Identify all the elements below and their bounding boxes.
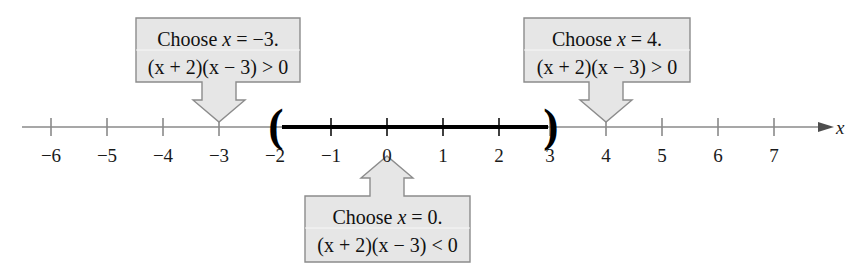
tick-label-0: 0 (367, 146, 407, 165)
callout-4-line1-prefix: Choose (552, 28, 617, 50)
tick-label--2: −2 (255, 146, 295, 165)
callout-0-line1-variable: x (397, 206, 406, 228)
callout-neg3-line1: Choose x = −3. (136, 29, 300, 49)
callout-4-line1: Choose x = 4. (524, 29, 690, 49)
tick-label--5: −5 (87, 146, 127, 165)
callout-0-line1: Choose x = 0. (305, 207, 470, 227)
axis-arrowhead-icon (818, 122, 834, 132)
callout-0-line2: (x + 2)(x − 3) < 0 (305, 235, 470, 255)
tick-label-3: 3 (530, 146, 570, 165)
tick-label--1: −1 (311, 146, 351, 165)
axis-variable-label: x (836, 118, 844, 137)
tick-label--6: −6 (31, 146, 71, 165)
interval-right-paren: ) (538, 103, 564, 149)
callout-neg3-line1-prefix: Choose (157, 28, 222, 50)
callout-4-line1-suffix: = 4. (626, 28, 662, 50)
number-line-figure: ( ) −6 −5 −4 −3 −2 −1 0 1 2 3 4 5 6 7 x … (0, 0, 849, 276)
callout-0-line1-prefix: Choose (332, 206, 397, 228)
tick-label-7: 7 (754, 146, 794, 165)
tick-label--3: −3 (199, 146, 239, 165)
tick-label-6: 6 (698, 146, 738, 165)
tick-label-1: 1 (423, 146, 463, 165)
callout-neg3-line1-suffix: = −3. (231, 28, 279, 50)
tick-label-4: 4 (586, 146, 626, 165)
callout-4-line2: (x + 2)(x − 3) > 0 (524, 57, 690, 77)
tick-label-2: 2 (479, 146, 519, 165)
callout-4-line1-variable: x (617, 28, 626, 50)
tick-label--4: −4 (143, 146, 183, 165)
interval-left-paren: ( (263, 103, 289, 149)
callout-neg3-line2: (x + 2)(x − 3) > 0 (136, 57, 300, 77)
tick-label-5: 5 (642, 146, 682, 165)
callout-neg3-line1-variable: x (222, 28, 231, 50)
callout-0-line1-suffix: = 0. (406, 206, 442, 228)
